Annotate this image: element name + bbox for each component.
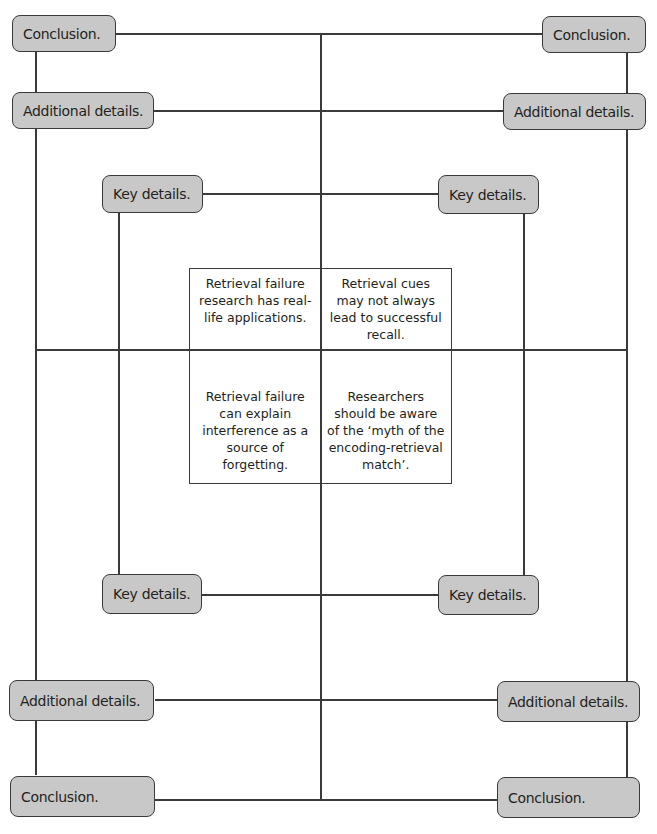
- node-label: Additional details.: [20, 693, 140, 709]
- center-argument-grid: Retrieval failure research has real-life…: [189, 268, 452, 484]
- top-conclusion-connector: [115, 33, 545, 35]
- grid-cell-top-right: Retrieval cues may not always lead to su…: [321, 269, 452, 376]
- node-label: Additional details.: [23, 103, 143, 119]
- bottom-left-additional-box: Additional details.: [9, 680, 154, 721]
- left-outer-line: [35, 50, 37, 775]
- node-label: Key details.: [449, 187, 526, 203]
- grid-cell-bottom-left: Retrieval failure can explain interferen…: [190, 376, 321, 483]
- bottom-right-additional-box: Additional details.: [497, 681, 640, 722]
- top-left-additional-box: Additional details.: [12, 92, 154, 129]
- bottom-key-connector: [202, 594, 440, 596]
- top-left-key-box: Key details.: [102, 175, 203, 213]
- node-label: Additional details.: [514, 104, 634, 120]
- grid-cell-top-left: Retrieval failure research has real-life…: [190, 269, 321, 376]
- node-label: Conclusion.: [21, 789, 98, 805]
- grid-cell-bottom-right: Researchers should be aware of the ‘myth…: [321, 376, 452, 483]
- right-outer-line: [626, 50, 628, 778]
- bottom-right-key-box: Key details.: [438, 575, 539, 615]
- bottom-left-conclusion-box: Conclusion.: [10, 776, 155, 817]
- top-additional-connector: [153, 110, 505, 112]
- bottom-left-key-box: Key details.: [102, 574, 202, 614]
- node-label: Key details.: [113, 586, 190, 602]
- top-left-conclusion-box: Conclusion.: [12, 15, 116, 52]
- top-key-connector: [202, 193, 440, 195]
- node-label: Key details.: [113, 186, 190, 202]
- top-right-conclusion-box: Conclusion.: [542, 16, 646, 53]
- left-inner-line: [118, 210, 120, 575]
- node-label: Key details.: [449, 587, 526, 603]
- top-right-additional-box: Additional details.: [503, 93, 646, 130]
- bottom-conclusion-connector: [155, 799, 500, 801]
- node-label: Conclusion.: [23, 26, 100, 42]
- node-label: Additional details.: [508, 694, 628, 710]
- node-label: Conclusion.: [553, 27, 630, 43]
- right-inner-line: [523, 210, 525, 576]
- bottom-right-conclusion-box: Conclusion.: [497, 777, 640, 818]
- bottom-additional-connector: [155, 699, 500, 701]
- top-right-key-box: Key details.: [438, 175, 539, 214]
- node-label: Conclusion.: [508, 790, 585, 806]
